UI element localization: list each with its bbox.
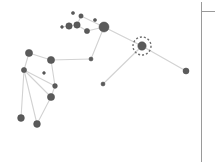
graph-node[interactable] bbox=[138, 42, 146, 50]
graph-node[interactable] bbox=[99, 22, 109, 32]
graph-edge bbox=[103, 46, 142, 84]
graph-node[interactable] bbox=[79, 14, 83, 18]
graph-node[interactable] bbox=[34, 121, 41, 128]
graph-node[interactable] bbox=[74, 22, 80, 28]
graph-edge bbox=[37, 97, 51, 124]
panel-horizontal-divider bbox=[201, 11, 215, 12]
graph-node[interactable] bbox=[53, 84, 58, 89]
graph-edge bbox=[142, 46, 186, 71]
graph-node[interactable] bbox=[61, 26, 64, 29]
graph-edge bbox=[21, 70, 24, 118]
panel-vertical-divider bbox=[201, 2, 202, 162]
graph-node[interactable] bbox=[101, 82, 105, 86]
graph-node[interactable] bbox=[89, 57, 93, 61]
graph-node[interactable] bbox=[47, 93, 54, 100]
graph-edge bbox=[51, 60, 55, 86]
graph-node[interactable] bbox=[84, 28, 89, 33]
graph-node[interactable] bbox=[25, 49, 32, 56]
graph-edge bbox=[24, 70, 55, 86]
graph-node[interactable] bbox=[43, 72, 46, 75]
graph-node[interactable] bbox=[21, 67, 26, 72]
graph-node[interactable] bbox=[66, 23, 72, 29]
graph-edge bbox=[104, 27, 142, 46]
network-graph-canvas[interactable] bbox=[0, 0, 215, 162]
graph-node[interactable] bbox=[183, 68, 189, 74]
graph-edge bbox=[24, 70, 37, 124]
graph-node[interactable] bbox=[71, 11, 74, 14]
node-layer bbox=[18, 11, 189, 127]
graph-node[interactable] bbox=[93, 18, 96, 21]
graph-node[interactable] bbox=[47, 56, 54, 63]
graph-edge bbox=[24, 70, 51, 97]
side-panel bbox=[202, 0, 215, 162]
graph-edge bbox=[51, 59, 91, 60]
graph-visualization-root bbox=[0, 0, 215, 162]
graph-node[interactable] bbox=[18, 115, 25, 122]
